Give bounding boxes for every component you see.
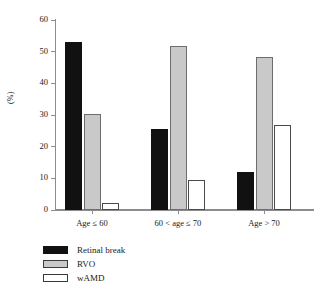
y-axis-title: (%) <box>6 91 15 104</box>
y-tick-label: 30 <box>40 108 49 121</box>
chart-legend: Retinal breakRVOwAMD <box>43 243 125 285</box>
white-swatch-icon <box>43 274 68 282</box>
bar <box>170 46 187 210</box>
legend-item[interactable]: wAMD <box>43 271 125 285</box>
bar <box>151 129 168 210</box>
x-tick-label: Age > 70 <box>214 217 314 229</box>
bar <box>237 172 254 210</box>
legend-item[interactable]: Retinal break <box>43 243 125 257</box>
bar <box>65 42 82 210</box>
bar <box>84 114 101 210</box>
x-tick-mark <box>264 210 265 214</box>
bar <box>102 203 119 210</box>
bar-chart-figure: (%) 0102030405060 Age ≤ 6060 < age ≤ 70A… <box>0 0 325 289</box>
x-tick-mark <box>178 210 179 214</box>
bar <box>256 57 273 210</box>
legend-item-label: RVO <box>77 258 95 270</box>
bar <box>188 180 205 210</box>
bar-group <box>151 20 205 210</box>
bar <box>274 125 291 210</box>
x-tick-label: 60 < age ≤ 70 <box>128 217 228 229</box>
x-tick-mark <box>92 210 93 214</box>
y-tick-label: 50 <box>40 45 49 58</box>
black-swatch-icon <box>43 246 68 254</box>
y-tick-label: 40 <box>40 76 49 89</box>
plot-area <box>55 20 313 210</box>
gray-swatch-icon <box>43 260 68 268</box>
y-tick-label: 10 <box>40 171 49 184</box>
legend-item[interactable]: RVO <box>43 257 125 271</box>
bar-group <box>65 20 119 210</box>
x-tick-label: Age ≤ 60 <box>42 217 142 229</box>
legend-item-label: wAMD <box>77 272 105 284</box>
y-tick-label: 20 <box>40 140 49 153</box>
y-tick-label: 0 <box>44 203 48 216</box>
legend-item-label: Retinal break <box>77 244 125 256</box>
y-tick-label: 60 <box>40 13 49 26</box>
bar-group <box>237 20 291 210</box>
